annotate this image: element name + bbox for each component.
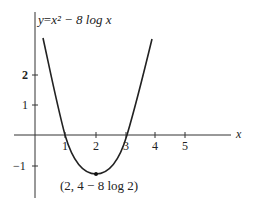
x-tick-4: 4 xyxy=(152,140,158,152)
y-tick-minus-1: −1 xyxy=(13,160,26,172)
chart-title: y=x² − 8 log x xyxy=(38,14,111,26)
title-rest: x² − 8 log x xyxy=(51,12,111,27)
x-tick-5: 5 xyxy=(182,140,188,152)
x-tick-1: 1 xyxy=(62,140,68,152)
x-tick-2: 2 xyxy=(93,140,99,152)
y-tick-2: 2 xyxy=(22,69,28,81)
x-axis-label: x xyxy=(236,128,241,140)
x-tick-3: 3 xyxy=(123,140,129,152)
y-tick-1: 1 xyxy=(22,99,28,111)
curve xyxy=(43,38,152,174)
min-point-dot xyxy=(94,172,98,176)
min-point-label: (2, 4 − 8 log 2) xyxy=(60,180,138,192)
